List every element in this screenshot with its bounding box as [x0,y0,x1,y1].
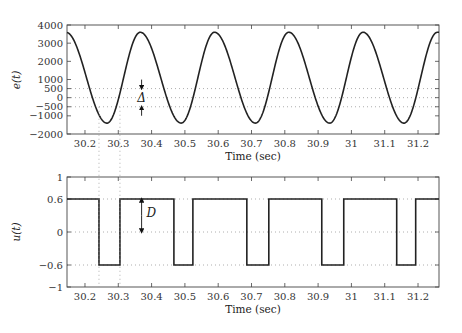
error-signal-curve [67,32,439,123]
bottom-x-tick-label: 30.5 [174,291,196,302]
bottom-x-tick-label: 30.7 [240,291,262,302]
bottom-x-tick-label: 30.8 [274,291,296,302]
top-x-tick-label: 30.5 [174,138,196,149]
top-x-tick-label: 30.7 [240,138,262,149]
relay-output-plot: u(t) Time (sec) 30.230.330.430.530.630.7… [10,172,439,316]
bottom-y-axis-label: u(t) [10,222,22,241]
bottom-x-tick-label: 31.1 [374,291,396,302]
top-x-tick-label: 30.6 [207,138,229,149]
bottom-y-tick-label: −0.6 [39,260,63,271]
top-y-tick-label: 2000 [38,56,63,67]
top-x-tick-label: 30.9 [307,138,329,149]
top-y-tick-label: 1000 [38,74,63,85]
top-x-tick-label: 30.8 [274,138,296,149]
bottom-x-tick-label: 31 [345,291,358,302]
d-label: D [146,206,157,220]
bottom-x-tick-label: 31.2 [407,291,429,302]
top-y-tick-label: −2000 [29,129,63,140]
delta-label: Δ [136,91,146,105]
bottom-y-tick-label: 0 [57,227,63,238]
bottom-x-axis-label: Time (sec) [225,303,281,315]
bottom-x-tick-label: 30.3 [107,291,129,302]
bottom-x-tick-label: 30.9 [307,291,329,302]
bottom-y-tick-label: 1 [57,172,63,183]
top-y-tick-label: 3000 [38,38,63,49]
relay-feedback-figure: e(t) Time (sec) 30.230.330.430.530.630.7… [0,0,462,333]
top-x-tick-label: 31.2 [407,138,429,149]
bottom-y-tick-label: −1 [48,282,63,293]
bottom-x-tick-label: 30.2 [74,291,96,302]
bottom-y-tick-label: 0.6 [47,194,63,205]
bottom-x-tick-label: 30.6 [207,291,229,302]
top-y-tick-label: 4000 [38,20,63,31]
top-x-tick-label: 30.2 [74,138,96,149]
top-x-tick-label: 31 [345,138,358,149]
error-signal-plot: e(t) Time (sec) 30.230.330.430.530.630.7… [10,20,439,163]
top-x-tick-label: 31.1 [374,138,396,149]
top-x-tick-label: 30.4 [140,138,162,149]
top-x-tick-label: 30.3 [107,138,129,149]
top-x-axis-label: Time (sec) [225,150,281,162]
top-y-axis-label: e(t) [10,71,22,90]
bottom-x-tick-label: 30.4 [140,291,162,302]
